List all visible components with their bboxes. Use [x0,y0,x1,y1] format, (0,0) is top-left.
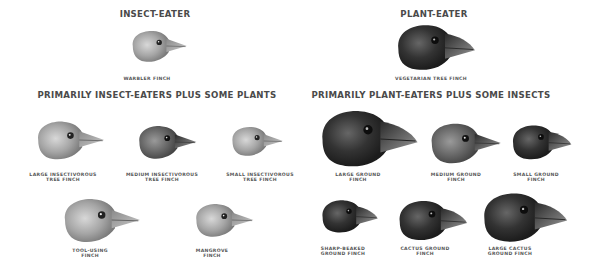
label-large-insectivorous-tree-finch: LARGE INSECTIVOROUS TREE FINCH [29,172,96,183]
bird-small-insectivorous-tree-finch-image [228,124,284,158]
label-small-insectivorous-tree-finch: SMALL INSECTIVOROUS TREE FINCH [226,172,294,183]
bird-mangrove-finch-image [185,201,261,239]
label-warbler-finch: WARBLER FINCH [123,76,170,81]
label-vegetarian-tree-finch: VEGETARIAN TREE FINCH [395,76,467,81]
label-tool-using-finch: TOOL-USING FINCH [72,248,108,259]
bird-tool-using-finch-image [50,195,150,245]
label-large-ground-finch: LARGE GROUND FINCH [335,172,380,183]
bird-cactus-ground-finch-image [390,198,474,242]
label-mangrove-finch: MANGROVE FINCH [196,248,229,259]
label-medium-insectivorous-tree-finch: MEDIUM INSECTIVOROUS TREE FINCH [126,172,198,183]
label-medium-ground-finch: MEDIUM GROUND FINCH [431,172,481,183]
heading-insect-plus-plants: PRIMARILY INSECT-EATERS PLUS SOME PLANTS [38,90,277,100]
bird-warbler-finch-image [126,28,190,64]
bird-medium-ground-finch-image [423,120,505,166]
bird-large-cactus-ground-finch-image [474,190,574,244]
label-sharp-beaked-ground-finch: SHARP-BEAKED GROUND FINCH [321,246,365,257]
bird-vegetarian-tree-finch-image [393,22,477,72]
label-cactus-ground-finch: CACTUS GROUND FINCH [400,246,449,257]
bird-large-ground-finch-image [316,107,420,169]
bird-medium-insectivorous-tree-finch-image [133,123,199,161]
heading-insect-eater: INSECT-EATER [120,9,191,19]
bird-small-ground-finch-image [509,123,573,161]
heading-plant-eater: PLANT-EATER [400,9,467,19]
heading-plant-plus-insects: PRIMARILY PLANT-EATERS PLUS SOME INSECTS [312,90,551,100]
bird-sharp-beaked-ground-finch-image [313,198,385,234]
bird-large-insectivorous-tree-finch-image [32,118,106,162]
label-large-cactus-ground-finch: LARGE CACTUS GROUND FINCH [488,246,532,257]
label-small-ground-finch: SMALL GROUND FINCH [513,172,559,183]
